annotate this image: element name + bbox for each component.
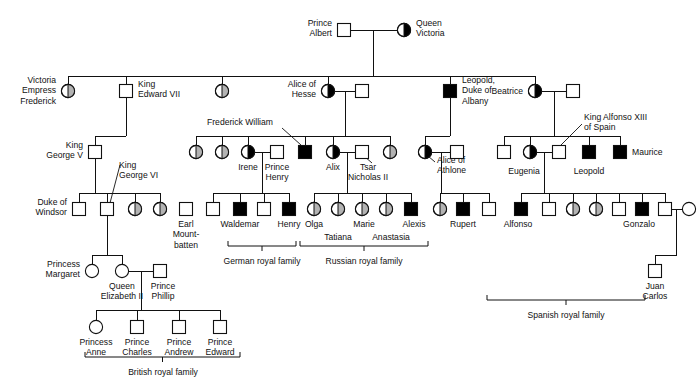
symbol-female bbox=[682, 202, 695, 215]
lbl-prince-charles: PrinceCharles bbox=[122, 337, 152, 357]
lbl-alfonso: Alfonso bbox=[504, 219, 533, 229]
individual-prince-edward[interactable] bbox=[214, 321, 227, 334]
individual-spain-s3[interactable] bbox=[613, 203, 626, 216]
individual-alfonso[interactable] bbox=[515, 203, 528, 216]
individual-irene[interactable] bbox=[241, 145, 254, 158]
bracket-label: Russian royal family bbox=[326, 256, 404, 266]
symbol-male bbox=[154, 265, 167, 278]
individual-gen2-daughter-a[interactable] bbox=[215, 84, 228, 97]
individual-juan-carlos[interactable] bbox=[649, 265, 662, 278]
individual-leopold-battenberg[interactable] bbox=[583, 146, 596, 159]
individual-gonzalo[interactable] bbox=[636, 203, 649, 216]
canvas-background bbox=[0, 0, 699, 388]
symbol-male bbox=[583, 146, 596, 159]
individual-maurice[interactable] bbox=[614, 146, 627, 159]
symbol-male bbox=[543, 203, 556, 216]
individual-king-alfonso-xiii[interactable] bbox=[553, 146, 566, 159]
individual-athlone-d[interactable] bbox=[433, 202, 446, 215]
symbol-male bbox=[356, 85, 369, 98]
individual-tsar-nicholas-ii[interactable] bbox=[356, 146, 369, 159]
individual-spain-d2[interactable] bbox=[589, 202, 602, 215]
lbl-prince-albert: PrinceAlbert bbox=[308, 18, 333, 38]
individual-gv-d1[interactable] bbox=[128, 202, 141, 215]
individual-hesse-d3[interactable] bbox=[383, 145, 396, 158]
symbol-male bbox=[89, 146, 102, 159]
lbl-alexis: Alexis bbox=[403, 219, 426, 229]
individual-anastasia[interactable] bbox=[379, 202, 392, 215]
symbol-male bbox=[234, 203, 247, 216]
lbl-irene: Irene bbox=[238, 162, 258, 172]
individual-alice-of-hesse-spouse[interactable] bbox=[356, 85, 369, 98]
individual-king-george-v[interactable] bbox=[89, 146, 102, 159]
lbl-alice-of-athlone: Alice ofAthlone bbox=[437, 155, 466, 175]
symbol-male bbox=[649, 265, 662, 278]
symbol-male bbox=[258, 203, 271, 216]
individual-henry[interactable] bbox=[283, 203, 296, 216]
individual-alix[interactable] bbox=[326, 145, 339, 158]
symbol-male bbox=[553, 146, 566, 159]
individual-gv-d2[interactable] bbox=[153, 202, 166, 215]
individual-olga[interactable] bbox=[307, 202, 320, 215]
individual-alice-of-hesse[interactable] bbox=[321, 84, 334, 97]
pedigree-chart: German royal familyRussian royal familyB… bbox=[0, 0, 699, 388]
individual-prince-henry[interactable] bbox=[271, 146, 284, 159]
individual-beatrice[interactable] bbox=[528, 84, 541, 97]
symbol-male bbox=[131, 321, 144, 334]
symbol-male bbox=[483, 203, 496, 216]
symbol-male bbox=[180, 203, 193, 216]
individual-waldemar[interactable] bbox=[234, 203, 247, 216]
symbol-male bbox=[173, 321, 186, 334]
individual-alexis[interactable] bbox=[405, 203, 418, 216]
individual-princess-margaret[interactable] bbox=[85, 264, 98, 277]
individual-earl-mountbatten[interactable] bbox=[180, 203, 193, 216]
lbl-prince-andrew: PrinceAndrew bbox=[164, 337, 194, 357]
symbol-male bbox=[101, 203, 114, 216]
individual-athlone-s[interactable] bbox=[483, 203, 496, 216]
individual-queen-elizabeth-ii[interactable] bbox=[115, 264, 128, 277]
individual-prince-andrew[interactable] bbox=[173, 321, 186, 334]
individual-eugenia[interactable] bbox=[523, 145, 536, 158]
individual-queen-victoria[interactable] bbox=[397, 23, 410, 36]
symbol-male bbox=[73, 203, 86, 216]
symbol-male bbox=[299, 146, 312, 159]
bracket-label: Spanish royal family bbox=[528, 310, 606, 320]
individual-spain-d1[interactable] bbox=[566, 202, 579, 215]
lbl-beatrice: Beatrice bbox=[491, 86, 523, 96]
individual-beatrice-son-1[interactable] bbox=[498, 146, 511, 159]
individual-tatiana[interactable] bbox=[331, 202, 344, 215]
symbol-male bbox=[614, 146, 627, 159]
individual-hesse-d1[interactable] bbox=[189, 145, 202, 158]
symbol-male bbox=[457, 203, 470, 216]
individual-king-george-vi[interactable] bbox=[101, 203, 114, 216]
individual-beatrice-spouse[interactable] bbox=[567, 85, 580, 98]
lbl-waldemar: Waldemar bbox=[221, 219, 260, 229]
individual-frederick-william[interactable] bbox=[299, 146, 312, 159]
lbl-alix: Alix bbox=[326, 162, 341, 172]
individual-alice-of-athlone[interactable] bbox=[418, 145, 431, 158]
individual-princess-anne[interactable] bbox=[89, 320, 102, 333]
lbl-queen-victoria: QueenVictoria bbox=[416, 18, 445, 38]
individual-duke-of-windsor[interactable] bbox=[73, 203, 86, 216]
symbol-male bbox=[659, 203, 672, 216]
individual-juan-father[interactable] bbox=[659, 203, 672, 216]
individual-prince-albert[interactable] bbox=[338, 24, 351, 37]
individual-hesse-d2[interactable] bbox=[215, 145, 228, 158]
lbl-juan-carlos: JuanCarlos bbox=[643, 281, 668, 301]
individual-leopold-duke-of-albany[interactable] bbox=[444, 85, 457, 98]
individual-king-edward-vii[interactable] bbox=[120, 85, 133, 98]
lbl-maurice: Maurice bbox=[632, 147, 663, 157]
lbl-rupert: Rupert bbox=[450, 219, 476, 229]
lbl-princess-margaret: PrincessMargaret bbox=[46, 259, 81, 279]
individual-spain-s2[interactable] bbox=[543, 203, 556, 216]
individual-marie[interactable] bbox=[355, 202, 368, 215]
individual-german-s1[interactable] bbox=[207, 203, 220, 216]
individual-prince-charles[interactable] bbox=[131, 321, 144, 334]
individual-prince-phillip[interactable] bbox=[154, 265, 167, 278]
lbl-henry: Henry bbox=[278, 219, 302, 229]
individual-victoria-empress-frederick[interactable] bbox=[61, 84, 74, 97]
individual-juan-mother[interactable] bbox=[682, 202, 695, 215]
individual-rupert[interactable] bbox=[457, 203, 470, 216]
individual-german-s3[interactable] bbox=[258, 203, 271, 216]
symbol-male bbox=[498, 146, 511, 159]
bracket-label: British royal family bbox=[128, 367, 198, 377]
